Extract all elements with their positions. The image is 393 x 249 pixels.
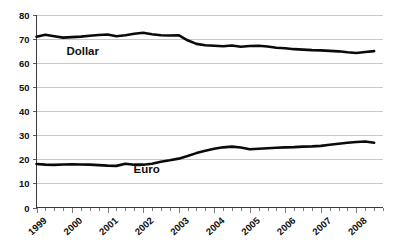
y-axis-tick-label: 20 <box>19 154 30 165</box>
x-axis-tick-label: 2005 <box>239 214 263 237</box>
y-axis-tick-label: 50 <box>19 82 30 93</box>
x-axis-tick-label: 2006 <box>275 215 298 237</box>
y-axis-labels-group: 01020304050607080 <box>19 10 30 214</box>
x-axis-tick-label: 2003 <box>168 215 191 237</box>
x-axis-tick-label-group: 2008 <box>346 215 369 237</box>
x-axis-labels-group: 1999200020012002200320042005200620072008 <box>26 214 369 237</box>
x-axis-tick-label-group: 1999 <box>26 215 49 237</box>
series-label-euro: Euro <box>134 163 160 175</box>
x-axis-tick-label-group: 2006 <box>275 215 298 237</box>
x-axis-tick-label-group: 2000 <box>61 215 84 237</box>
x-axis-tick-label: 2007 <box>310 215 333 237</box>
x-axis-minor-ticks-group <box>38 208 384 213</box>
x-axis-tick-label-group: 2002 <box>132 215 155 237</box>
y-axis-tick-label: 0 <box>24 203 29 214</box>
gridlines-group <box>37 16 384 184</box>
x-axis-tick-label: 2002 <box>132 215 155 237</box>
y-axis-tick-label: 60 <box>19 58 30 69</box>
series-line-euro <box>37 142 375 166</box>
x-axis-tick-label: 2008 <box>346 215 369 237</box>
x-axis-tick-label-group: 2004 <box>203 214 227 237</box>
y-axis-tick-label: 30 <box>19 130 30 141</box>
x-axis-tick-label-group: 2003 <box>168 215 191 237</box>
x-axis-tick-label-group: 2007 <box>310 215 333 237</box>
y-axis-ticks-group <box>33 16 37 209</box>
x-axis-tick-label: 2000 <box>61 215 84 237</box>
chart-container: 01020304050607080 1999200020012002200320… <box>0 0 393 249</box>
x-axis-tick-label-group: 2001 <box>97 214 121 237</box>
x-axis-tick-label: 2004 <box>203 214 227 237</box>
y-axis-tick-label: 40 <box>19 106 30 117</box>
y-axis-tick-label: 70 <box>19 34 30 45</box>
x-axis-tick-label: 2001 <box>97 214 121 237</box>
series-annotations-group: DollarEuro <box>66 45 159 175</box>
x-axis-tick-label: 1999 <box>26 215 49 237</box>
y-axis-tick-label: 10 <box>19 178 30 189</box>
line-chart: 01020304050607080 1999200020012002200320… <box>0 0 393 249</box>
series-label-dollar: Dollar <box>66 45 99 57</box>
x-axis-tick-label-group: 2005 <box>239 214 263 237</box>
y-axis-tick-label: 80 <box>19 10 30 21</box>
